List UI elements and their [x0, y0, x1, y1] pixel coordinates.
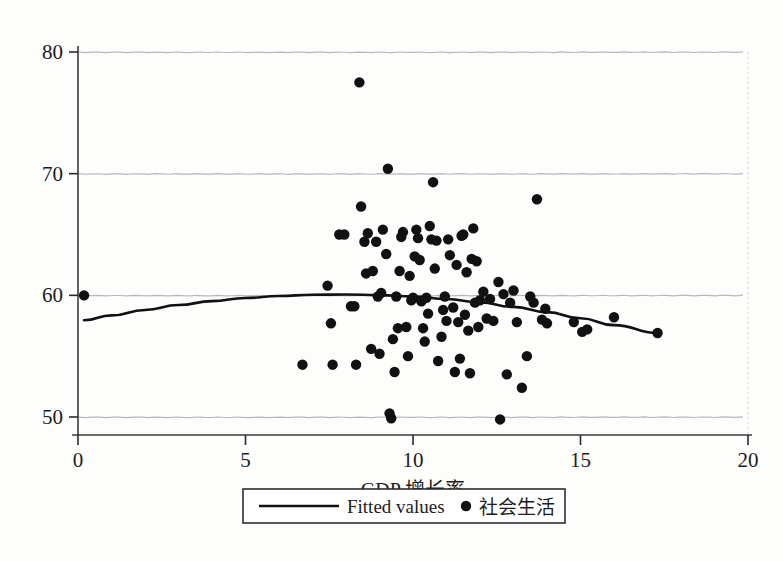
x-tick-label-5: 5: [240, 448, 251, 472]
gridline-y-70: [78, 174, 743, 175]
scatter-point: [363, 228, 373, 238]
x-tick-label-20: 20: [738, 448, 759, 472]
scatter-point: [389, 367, 399, 377]
y-tick-label-80: 80: [42, 40, 63, 64]
scatter-point: [401, 322, 411, 332]
legend-label-social-life: 社会生活: [479, 496, 555, 518]
legend: Fitted values社会生活: [243, 489, 565, 523]
scatter-point: [582, 324, 592, 334]
scatter-point: [609, 312, 619, 322]
scatter-point: [421, 293, 431, 303]
scatter-point: [349, 301, 359, 311]
scatter-point: [383, 164, 393, 174]
scatter-point: [404, 271, 414, 281]
scatter-point: [438, 305, 448, 315]
legend-label-fitted-values: Fitted values: [347, 496, 445, 517]
x-tick-label-0: 0: [73, 448, 84, 472]
plot-svg: 50607080 05101520 GDP 增长率 Fitted values社…: [0, 0, 783, 561]
scatter-point: [508, 285, 518, 295]
scatter-point: [418, 323, 428, 333]
scatter-point: [428, 177, 438, 187]
scatter-point: [488, 316, 498, 326]
scatter-point: [339, 229, 349, 239]
y-tick-label-50: 50: [42, 405, 63, 429]
scatter-point: [79, 290, 89, 300]
scatter-point: [354, 77, 364, 87]
scatter-point: [371, 237, 381, 247]
gridline-y-50: [78, 417, 743, 418]
scatter-point: [540, 304, 550, 314]
scatter-point: [436, 332, 446, 342]
scatter-point: [471, 256, 481, 266]
scatter-point: [542, 318, 552, 328]
scatter-point: [512, 317, 522, 327]
scatter-point: [326, 318, 336, 328]
scatter-plot-figure: 50607080 05101520 GDP 增长率 Fitted values社…: [0, 0, 783, 561]
scatter-point: [498, 289, 508, 299]
scatter-point: [322, 280, 332, 290]
scatter-point: [463, 325, 473, 335]
scatter-point: [493, 277, 503, 287]
scatter-point: [394, 266, 404, 276]
scatter-point: [386, 413, 396, 423]
scatter-point: [445, 250, 455, 260]
scatter-point: [431, 235, 441, 245]
scatter-point: [391, 291, 401, 301]
scatter-point: [485, 294, 495, 304]
scatter-point: [415, 255, 425, 265]
scatter-point: [430, 263, 440, 273]
scatter-point: [532, 194, 542, 204]
scatter-point: [517, 383, 527, 393]
scatter-point: [450, 367, 460, 377]
scatter-point: [376, 288, 386, 298]
scatter-point: [455, 353, 465, 363]
scatter-point: [451, 260, 461, 270]
scatter-point: [433, 356, 443, 366]
scatter-point: [569, 317, 579, 327]
chart-page: 50607080 05101520 GDP 增长率 Fitted values社…: [0, 0, 783, 561]
scatter-point: [351, 359, 361, 369]
scatter-point: [522, 351, 532, 361]
scatter-point: [398, 227, 408, 237]
scatter-point: [443, 234, 453, 244]
scatter-point: [413, 233, 423, 243]
scatter-point: [461, 267, 471, 277]
scatter-point: [448, 302, 458, 312]
scatter-point: [460, 310, 470, 320]
scatter-point: [356, 201, 366, 211]
scatter-point: [528, 297, 538, 307]
scatter-point: [378, 224, 388, 234]
scatter-point: [297, 359, 307, 369]
scatter-point: [468, 223, 478, 233]
scatter-point: [502, 369, 512, 379]
scatter-point: [327, 359, 337, 369]
scatter-point: [458, 229, 468, 239]
scatter-point: [388, 334, 398, 344]
scatter-point: [425, 221, 435, 231]
gridline-y-80: [78, 52, 743, 53]
scatter-point: [473, 322, 483, 332]
scatter-point: [652, 328, 662, 338]
scatter-point: [465, 368, 475, 378]
scatter-point: [381, 249, 391, 259]
y-tick-label-70: 70: [42, 162, 63, 186]
scatter-point: [441, 316, 451, 326]
figure-background: [0, 0, 783, 561]
scatter-point: [440, 291, 450, 301]
scatter-point: [403, 351, 413, 361]
x-tick-label-15: 15: [570, 448, 591, 472]
legend-dot-swatch: [461, 501, 471, 511]
scatter-point: [505, 297, 515, 307]
scatter-point: [368, 266, 378, 276]
y-tick-label-60: 60: [42, 283, 63, 307]
x-tick-label-10: 10: [403, 448, 424, 472]
scatter-point: [420, 336, 430, 346]
scatter-point: [423, 308, 433, 318]
scatter-point: [495, 414, 505, 424]
scatter-point: [374, 349, 384, 359]
